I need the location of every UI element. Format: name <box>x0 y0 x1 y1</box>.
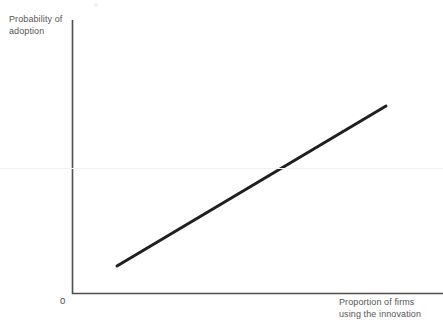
origin-tick-label: 0 <box>60 295 65 306</box>
plot-area <box>0 0 443 333</box>
chart-page: Probability of adoption Proportion of fi… <box>0 0 443 333</box>
y-axis-label: Probability of adoption <box>9 14 101 37</box>
adoption-trend-line <box>117 106 386 266</box>
x-axis-label: Proportion of firms using the innovation <box>339 297 443 320</box>
figure-canvas: Probability of adoption Proportion of fi… <box>0 0 443 333</box>
